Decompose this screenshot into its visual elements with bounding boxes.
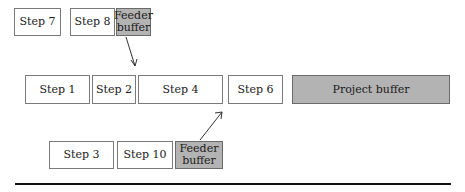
- arrow-bottom-feeder-to-step-6: [200, 112, 222, 140]
- arrow-top-feeder-to-step-4: [126, 37, 135, 66]
- connector-arrows: [0, 0, 465, 192]
- bottom-rule: [15, 183, 451, 185]
